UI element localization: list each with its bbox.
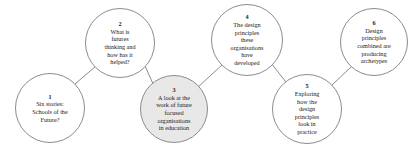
node-number-5: 5 [305, 82, 308, 90]
diagram-node-1[interactable]: 1Six stories:Schools of theFuture? [15, 73, 85, 143]
diagram-node-5[interactable]: 5Exploringhow thedesignprincipleslook in… [272, 74, 342, 144]
process-flow-diagram: 1Six stories:Schools of theFuture?2What … [0, 0, 415, 153]
node-label-3: A look at thework of futurefocusedorgani… [152, 94, 196, 132]
node-label-1: Six stories:Schools of theFuture? [28, 100, 71, 123]
node-label-line: archetypes [357, 57, 391, 65]
node-label-line: have [231, 51, 264, 59]
node-label-line: What is [104, 28, 135, 36]
node-label-line: principles [231, 29, 264, 37]
node-number-3: 3 [172, 86, 175, 94]
node-number-2: 2 [118, 20, 121, 28]
connector-5-to-6 [330, 66, 352, 87]
node-label-line: how the [295, 98, 320, 106]
node-label-line: how has it [104, 51, 135, 59]
node-label-line: focused [156, 109, 192, 117]
node-label-line: A look at the [156, 94, 192, 102]
node-label-line: organisations [231, 44, 264, 52]
node-label-line: look in [295, 120, 320, 128]
node-label-line: developed [231, 59, 264, 67]
node-label-line: helped? [104, 58, 135, 66]
node-label-line: The design [231, 21, 264, 29]
node-label-line: practice [295, 128, 320, 136]
node-label-line: work of future [156, 101, 192, 109]
node-label-line: Six stories: [32, 100, 67, 108]
connector-3-to-4 [197, 64, 223, 88]
node-label-line: principles [295, 113, 320, 121]
node-label-line: futures [104, 35, 135, 43]
node-label-line: principles [357, 34, 391, 42]
node-label-line: in education [156, 124, 192, 132]
diagram-node-3[interactable]: 3A look at thework of futurefocusedorgan… [140, 75, 208, 143]
node-label-line: these [231, 36, 264, 44]
node-label-5: Exploringhow thedesignprincipleslook inp… [291, 90, 324, 136]
node-number-1: 1 [48, 93, 51, 101]
node-label-line: Design [357, 27, 391, 35]
node-label-line: combined are [357, 42, 391, 50]
node-label-line: organisations [156, 117, 192, 125]
node-number-4: 4 [245, 13, 248, 21]
diagram-node-4[interactable]: 4The designprinciplestheseorganisationsh… [211, 4, 283, 76]
node-label-line: thinking and [104, 43, 135, 51]
connector-1-to-2 [75, 66, 96, 84]
node-label-line: Exploring [295, 90, 320, 98]
diagram-node-2[interactable]: 2What isfuturesthinking andhow has ithel… [85, 8, 155, 78]
node-number-6: 6 [372, 19, 375, 27]
node-label-4: The designprinciplestheseorganisationsha… [227, 21, 268, 67]
node-label-line: producing [357, 50, 391, 58]
node-label-2: What isfuturesthinking andhow has ithelp… [100, 28, 139, 66]
node-label-line: Future? [32, 116, 67, 124]
diagram-node-6[interactable]: 6Designprinciplescombined areproducingar… [340, 8, 408, 76]
node-label-6: Designprinciplescombined areproducingarc… [353, 27, 395, 65]
node-label-line: Schools of the [32, 108, 67, 116]
node-label-line: design [295, 105, 320, 113]
